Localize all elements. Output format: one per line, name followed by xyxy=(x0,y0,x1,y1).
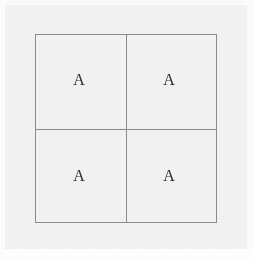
scan-canvas: A A A A xyxy=(0,0,253,259)
cell-label-top-right: A xyxy=(157,72,181,88)
cell-label-bottom-right: A xyxy=(157,168,181,184)
bottom-margin-strip xyxy=(0,249,253,259)
two-by-two-grid-figure: A A A A xyxy=(35,34,217,223)
top-margin-strip xyxy=(0,0,253,5)
right-margin-strip xyxy=(247,0,253,259)
cell-label-bottom-left: A xyxy=(67,168,91,184)
left-margin-strip xyxy=(0,0,5,259)
cell-label-top-left: A xyxy=(67,72,91,88)
grid-lines-svg xyxy=(35,34,217,223)
